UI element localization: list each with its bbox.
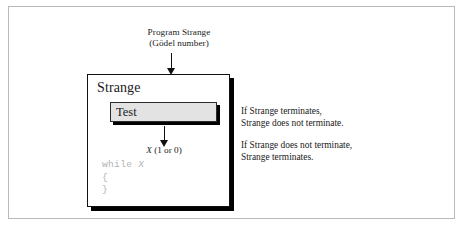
test-output-label: X (1 or 0) — [115, 145, 213, 156]
strange-box-title: Strange — [97, 79, 140, 96]
paradox-statement-1-line-1: If Strange terminates, — [241, 106, 431, 118]
figure-frame: Program Strange (Gödel number) Strange T… — [8, 6, 455, 219]
code-variable-x: X — [138, 159, 144, 170]
code-line-close-brace: } — [102, 184, 144, 197]
while-loop-code-block: while X { } — [102, 159, 144, 197]
test-output-arrow-icon — [160, 126, 169, 147]
code-line-while: while X — [102, 159, 144, 172]
paradox-statements: If Strange terminates, Strange does not … — [241, 106, 431, 163]
program-input-label-line-2: (Gödel number) — [117, 38, 241, 49]
paradox-statement-2-line-2: Strange terminates. — [241, 152, 431, 164]
program-input-label: Program Strange (Gödel number) — [117, 27, 241, 50]
paradox-statement-1: If Strange terminates, Strange does not … — [241, 106, 431, 129]
paradox-statement-2: If Strange does not terminate, Strange t… — [241, 140, 431, 163]
test-box-label: Test — [116, 104, 137, 120]
test-output-values: (1 or 0) — [152, 145, 182, 155]
input-arrow-icon — [167, 53, 176, 75]
paradox-statement-2-line-1: If Strange does not terminate, — [241, 140, 431, 152]
code-line-open-brace: { — [102, 172, 144, 185]
arrow-shaft — [164, 126, 165, 141]
arrow-shaft — [171, 53, 172, 69]
test-subroutine-box: Test — [110, 102, 217, 122]
strange-program-box: Strange Test X (1 or 0) while X { } — [87, 74, 230, 207]
program-input-label-line-1: Program Strange — [117, 27, 241, 38]
paradox-statement-1-line-2: Strange does not terminate. — [241, 118, 431, 130]
code-keyword-while: while — [102, 159, 138, 170]
